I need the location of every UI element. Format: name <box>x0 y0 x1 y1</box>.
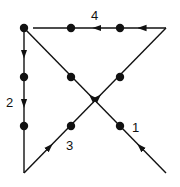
segment-label-2: 2 <box>6 95 13 110</box>
dot <box>67 73 75 81</box>
path-segments <box>24 28 166 173</box>
segment-label-4: 4 <box>91 8 98 23</box>
nine-dot-diagram: 1234 <box>0 0 180 187</box>
dot <box>67 24 75 32</box>
dot <box>20 122 28 130</box>
dot <box>116 24 124 32</box>
dot <box>116 122 124 130</box>
dot <box>20 24 28 32</box>
dot <box>116 73 124 81</box>
segment-label-1: 1 <box>132 120 139 135</box>
dot <box>20 73 28 81</box>
dot <box>67 122 75 130</box>
segment-label-3: 3 <box>66 138 73 153</box>
